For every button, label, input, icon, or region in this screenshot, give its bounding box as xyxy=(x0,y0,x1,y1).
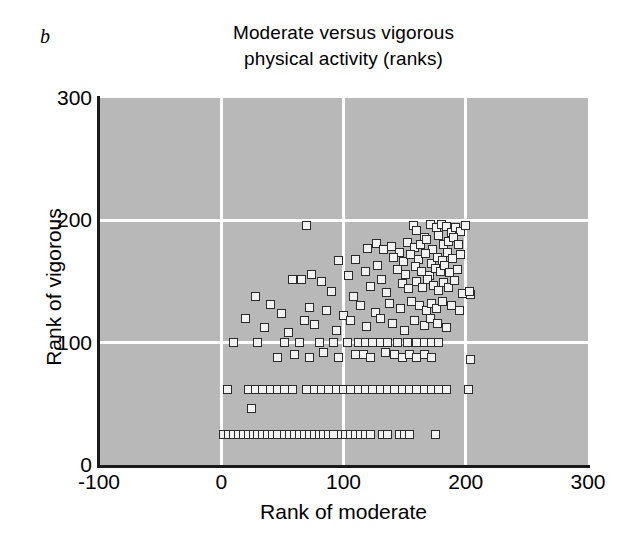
data-point xyxy=(465,287,474,296)
data-point xyxy=(247,404,256,413)
data-point xyxy=(421,249,430,258)
data-point xyxy=(317,277,326,286)
data-point xyxy=(396,304,405,313)
data-point xyxy=(405,430,414,439)
data-point xyxy=(343,338,352,347)
data-point xyxy=(381,348,390,357)
chart-title-line-2: physical activity (ranks) xyxy=(99,46,588,72)
data-point xyxy=(302,221,311,230)
data-point xyxy=(388,319,397,328)
gridline-horizontal-200 xyxy=(99,219,588,222)
data-point xyxy=(464,385,473,394)
data-point xyxy=(383,430,392,439)
data-point xyxy=(427,353,436,362)
y-tick-label-0: 0 xyxy=(80,454,92,476)
data-point xyxy=(453,265,462,274)
data-point xyxy=(351,255,360,264)
data-point xyxy=(461,221,470,230)
y-axis-label: Rank of vigorous xyxy=(42,127,66,447)
data-point xyxy=(431,430,440,439)
data-point xyxy=(344,271,353,280)
data-point xyxy=(266,300,275,309)
data-point xyxy=(305,353,314,362)
data-point xyxy=(434,338,443,347)
data-point xyxy=(241,314,250,323)
data-point xyxy=(280,338,289,347)
data-point xyxy=(288,385,297,394)
data-point xyxy=(327,287,336,296)
y-axis-line xyxy=(97,96,100,467)
data-point xyxy=(434,231,443,240)
data-point xyxy=(329,338,338,347)
data-point xyxy=(379,245,388,254)
data-point xyxy=(251,292,260,301)
data-point xyxy=(450,276,459,285)
data-point xyxy=(277,309,286,318)
data-point xyxy=(422,235,431,244)
data-point xyxy=(466,355,475,364)
data-point xyxy=(253,338,262,347)
data-point xyxy=(418,283,427,292)
data-point xyxy=(366,282,375,291)
data-point xyxy=(400,326,409,335)
data-point xyxy=(373,261,382,270)
data-point xyxy=(349,292,358,301)
gridline-vertical-100 xyxy=(342,98,345,465)
data-point xyxy=(385,299,394,308)
data-point xyxy=(319,348,328,357)
data-point xyxy=(456,250,465,259)
data-point xyxy=(297,275,306,284)
data-point xyxy=(334,256,343,265)
data-point xyxy=(382,288,391,297)
data-point xyxy=(284,328,293,337)
data-point xyxy=(383,338,392,347)
data-point xyxy=(366,353,375,362)
data-point xyxy=(322,306,331,315)
data-point xyxy=(295,338,304,347)
data-point xyxy=(334,353,343,362)
data-point xyxy=(410,316,419,325)
chart-title: Moderate versus vigorous physical activi… xyxy=(99,20,588,72)
x-tick-label-200: 200 xyxy=(421,470,511,494)
data-point xyxy=(288,275,297,284)
data-point xyxy=(442,323,451,332)
x-tick-label-0: 0 xyxy=(176,470,266,494)
x-tick-label-100: 100 xyxy=(299,470,389,494)
data-point xyxy=(356,301,365,310)
data-point xyxy=(401,270,410,279)
data-point xyxy=(454,240,463,249)
data-point xyxy=(332,326,341,335)
data-point xyxy=(403,338,412,347)
data-point xyxy=(290,350,299,359)
data-point xyxy=(305,303,314,312)
gridline-vertical-200 xyxy=(464,98,467,465)
data-point xyxy=(315,338,324,347)
data-point xyxy=(346,316,355,325)
data-point xyxy=(361,267,370,276)
data-point xyxy=(442,385,451,394)
data-point xyxy=(307,270,316,279)
x-tick-label-300: 300 xyxy=(543,470,625,494)
data-point xyxy=(229,338,238,347)
y-tick-label-300: 300 xyxy=(57,87,92,109)
data-point xyxy=(389,253,398,262)
data-point xyxy=(366,430,375,439)
data-point xyxy=(377,275,386,284)
data-point xyxy=(273,353,282,362)
gridline-vertical-0 xyxy=(220,98,223,465)
data-point xyxy=(376,314,385,323)
data-point xyxy=(362,322,371,331)
chart-title-line-1: Moderate versus vigorous xyxy=(99,20,588,46)
data-point xyxy=(223,385,232,394)
data-point xyxy=(300,316,309,325)
data-point xyxy=(363,244,372,253)
x-axis-label: Rank of moderate xyxy=(99,500,588,524)
x-axis-line xyxy=(97,465,590,468)
data-point xyxy=(393,338,402,347)
data-point xyxy=(310,320,319,329)
scatter-plot-figure: b Moderate versus vigorous physical acti… xyxy=(0,0,625,547)
plot-area xyxy=(99,98,588,465)
data-point xyxy=(455,306,464,315)
data-point xyxy=(260,323,269,332)
